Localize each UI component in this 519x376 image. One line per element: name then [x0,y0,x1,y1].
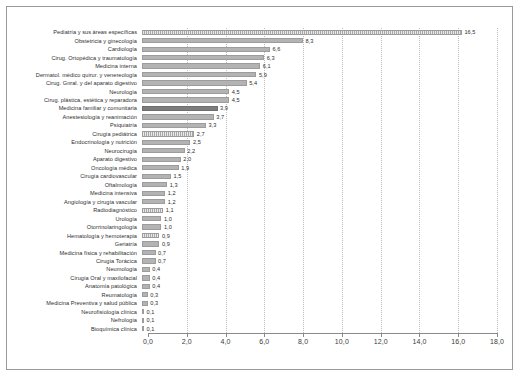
bar-row: Cirugía Torácica0,7 [0,257,497,265]
bar-row: Neurología4,5 [0,87,497,95]
bar [142,258,156,263]
bar-value-label: 0,7 [158,258,166,264]
bar-row: Cirug. plástica, estética y reparadora4,… [0,96,497,104]
bar-row: Radiodiagnóstico1,1 [0,206,497,214]
bar-container: 6,6 [142,45,497,53]
bar-value-label: 0,9 [162,233,170,239]
bar-value-label: 0,4 [152,266,160,272]
bar-row: Anestesiología y reanimación3,7 [0,113,497,121]
bar-value-label: 1,3 [170,182,178,188]
bar-value-label: 4,5 [232,89,240,95]
category-label: Medicina familiar y comunitaria [0,105,142,111]
tick-mark [458,333,459,337]
bar-row: Medicina Preventiva y salud pública0,3 [0,299,497,307]
bar-container: 0,4 [142,282,497,290]
bar-row: Neurofisiología clínica0,1 [0,308,497,316]
bar-value-label: 1,0 [164,224,172,230]
bar-container: 1,0 [142,214,497,222]
bar-container: 0,1 [142,325,497,333]
category-label: Cirugía cardiovascular [0,173,142,179]
bar-row: Obstetricia y ginecología8,3 [0,36,497,44]
bar-value-label: 5,9 [259,72,267,78]
category-label: Oftalmología [0,182,142,188]
bar-container: 6,1 [142,62,497,70]
bar-container: 1,2 [142,189,497,197]
bar-value-label: 6,3 [267,55,275,61]
bar [142,284,150,289]
x-axis-tick-label: 16,0 [451,338,465,345]
bar-container: 2,0 [142,155,497,163]
tick-mark [187,333,188,337]
x-axis-tick-label: 2,0 [182,338,192,345]
bar [142,131,194,136]
bar-rows: Pediatría y sus áreas específicas16,5Obs… [0,28,497,333]
category-label: Hematología y hemoterapia [0,233,142,239]
bar-container: 8,3 [142,36,497,44]
bar-container: 3,9 [142,104,497,112]
bar [142,47,270,52]
category-label: Cirug. Ortopédica y traumatología [0,55,142,61]
bar-row: Cirugía cardiovascular1,5 [0,172,497,180]
category-label: Anatomía patológica [0,283,142,289]
bar [142,97,229,102]
bar-row: Urología1,0 [0,214,497,222]
bar-container: 0,4 [142,265,497,273]
bar-container: 16,5 [142,28,497,36]
bar [142,208,163,213]
category-label: Oncología médica [0,165,142,171]
bar [142,224,161,229]
bar [142,182,167,187]
bar-value-label: 0,3 [150,292,158,298]
bar-value-label: 1,5 [174,173,182,179]
bar-value-label: 0,4 [152,283,160,289]
bar-value-label: 0,4 [152,275,160,281]
tick-mark [148,333,149,337]
bar-value-label: 5,4 [249,80,257,86]
category-label: Medicina Preventiva y salud pública [0,300,142,306]
bar-container: 1,0 [142,223,497,231]
bar-row: Neumología0,4 [0,265,497,273]
bar-value-label: 3,7 [216,114,224,120]
bar-value-label: 2,0 [183,156,191,162]
bar-value-label: 1,2 [168,190,176,196]
category-label: Neurocirugía [0,148,142,154]
bar-row: Otorrinolaringología1,0 [0,223,497,231]
bar-row: Dermatol. médico quirur. y venereología5… [0,70,497,78]
bar-row: Oftalmología1,3 [0,181,497,189]
bar-row: Psiquiatría3,3 [0,121,497,129]
bar-container: 4,5 [142,87,497,95]
bar-container: 3,3 [142,121,497,129]
category-label: Urología [0,216,142,222]
category-label: Obstetricia y ginecología [0,38,142,44]
category-label: Otorrinolaringología [0,224,142,230]
bar [142,191,165,196]
bar-value-label: 6,1 [263,63,271,69]
bar-value-label: 0,7 [158,250,166,256]
bar [142,267,150,272]
bar [142,89,229,94]
bar-value-label: 1,2 [168,199,176,205]
bar-container: 5,4 [142,79,497,87]
bar-row: Reumatología0,3 [0,291,497,299]
category-label: Psiquiatría [0,122,142,128]
bar [142,106,218,111]
bar-container: 1,2 [142,197,497,205]
x-axis-tick-label: 6,0 [259,338,269,345]
bar-container: 1,1 [142,206,497,214]
bar-row: Hematología y hemoterapia0,9 [0,231,497,239]
bar [142,241,159,246]
bar [142,72,256,77]
tick-mark [342,333,343,337]
bar [142,233,159,238]
bar-container: 1,9 [142,164,497,172]
bar [142,165,179,170]
bar [142,123,206,128]
category-label: Medicina interna [0,63,142,69]
category-label: Pediatría y sus áreas específicas [0,29,142,35]
bar-row: Nefrología0,1 [0,316,497,324]
x-axis-tick-label: 4,0 [221,338,231,345]
bar [142,292,148,297]
category-label: Neurofisiología clínica [0,309,142,315]
category-label: Nefrología [0,317,142,323]
bar-value-label: 0,1 [147,309,155,315]
